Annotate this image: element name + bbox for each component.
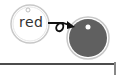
source-tag-label: red <box>19 15 43 29</box>
target-tag <box>67 17 109 59</box>
tag-hole-icon <box>26 8 30 12</box>
tag-hole-icon <box>86 25 91 30</box>
diagram-canvas: red <box>0 0 116 75</box>
diagram-svg <box>0 0 116 75</box>
